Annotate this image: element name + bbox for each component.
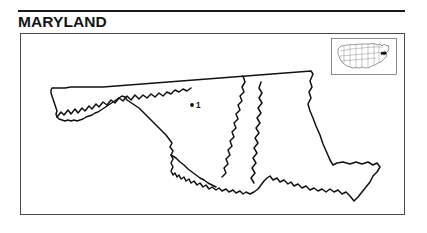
highlighted-state-maryland: [381, 52, 387, 55]
map-frame: 1: [20, 33, 405, 215]
marker-label-1: 1: [196, 101, 201, 110]
page-title: MARYLAND: [18, 12, 107, 31]
atlas-page: MARYLAND 1: [0, 0, 427, 233]
united-states-locator-map: [331, 38, 397, 75]
maryland-boundary-path: [51, 71, 380, 201]
marker-dot-1[interactable]: [190, 103, 194, 107]
